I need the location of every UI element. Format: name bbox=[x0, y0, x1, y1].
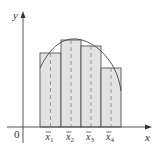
midpoint-rule-diagram: y x 0 x1x2x3x4 bbox=[0, 0, 160, 152]
midpoint-label-3: x3 bbox=[85, 131, 94, 144]
y-axis-arrow-icon bbox=[21, 11, 26, 18]
midpoint-label-1: x1 bbox=[45, 131, 54, 144]
rectangles bbox=[40, 40, 121, 127]
midpoint-label-4: x4 bbox=[105, 131, 114, 144]
y-axis-label: y bbox=[12, 9, 18, 21]
origin-label: 0 bbox=[14, 128, 20, 140]
midpoint-labels: x1x2x3x4 bbox=[45, 131, 115, 144]
riemann-rectangle bbox=[81, 46, 101, 127]
x-axis-arrow-icon bbox=[145, 125, 152, 130]
midpoint-label-2: x2 bbox=[65, 131, 74, 144]
x-axis-label: x bbox=[144, 131, 150, 143]
